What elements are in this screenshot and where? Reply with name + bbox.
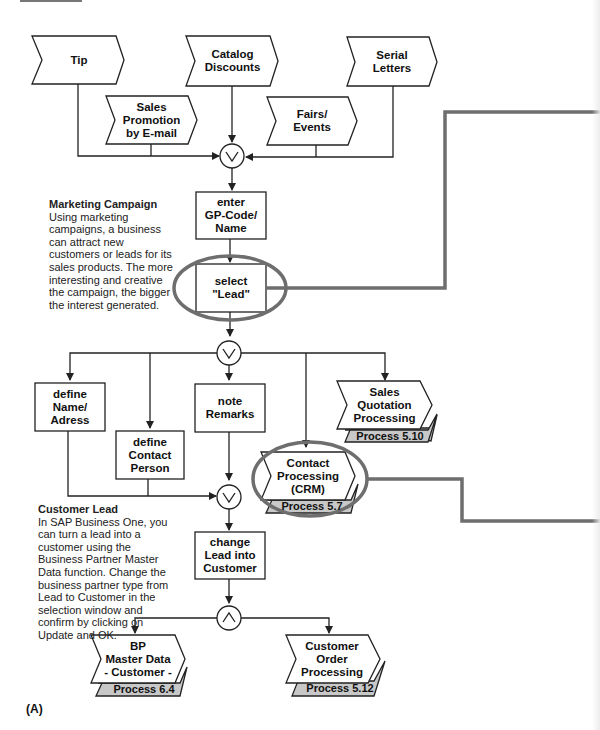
- process-contact-number: Process 5.7: [274, 500, 350, 512]
- event-catalog: Catalog Discounts: [195, 36, 270, 86]
- function-define-name: define Name/ Adress: [35, 383, 105, 431]
- process-sales-quotation-label: Sales Quotation Processing: [347, 381, 422, 429]
- note-marketing-text: Using marketing campaigns, a business ca…: [49, 211, 173, 311]
- process-contact-label: Contact Processing (CRM): [270, 452, 346, 500]
- process-customer-order-label: Customer Order Processing: [295, 635, 369, 683]
- note-customer-lead: Customer Lead In SAP Business One, you c…: [38, 503, 175, 642]
- function-define-contact: define Contact Person: [116, 431, 184, 479]
- event-serial: Serial Letters: [355, 37, 429, 86]
- function-note-remarks: note Remarks: [195, 384, 265, 432]
- event-fairs: Fairs/ Events: [276, 97, 348, 145]
- page-edge-shadow: [592, 0, 600, 730]
- process-bp-master-number: Process 6.4: [106, 683, 182, 695]
- note-customer-lead-title: Customer Lead: [38, 503, 175, 516]
- note-marketing-campaign: Marketing Campaign Using marketing campa…: [49, 198, 174, 311]
- or-connector-3: [217, 485, 241, 509]
- note-customer-lead-text: In SAP Business One, you can turn a lead…: [38, 516, 168, 641]
- process-bp-master-label: BP Master Data - Customer -: [100, 635, 176, 683]
- function-select-lead: select "Lead": [196, 264, 266, 312]
- note-marketing-title: Marketing Campaign: [49, 198, 174, 211]
- highlight-line-2: [367, 479, 600, 521]
- function-change-lead: change Lead into Customer: [195, 532, 265, 579]
- event-sales-promo: Sales Promotion by E-mail: [115, 96, 188, 144]
- or-connector-1: [220, 144, 244, 168]
- function-enter-gp: enter GP-Code/ Name: [196, 192, 266, 239]
- and-connector-1: [217, 606, 241, 630]
- process-customer-order-number: Process 5.12: [302, 682, 378, 694]
- process-sales-quotation-number: Process 5.10: [352, 430, 428, 442]
- or-connector-2: [217, 341, 241, 365]
- figure-label: (A): [26, 702, 43, 716]
- event-tip: Tip: [42, 36, 116, 84]
